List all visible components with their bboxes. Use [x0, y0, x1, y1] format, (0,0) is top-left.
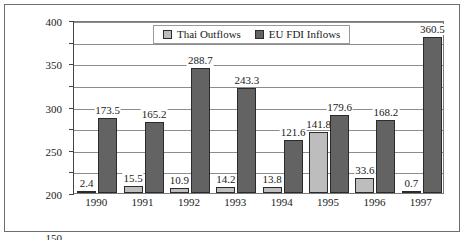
x-axis-tick-label-1994: 1994 [271, 197, 293, 208]
y-axis-tick: 50 [69, 172, 74, 173]
bar-value-label: 121.6 [280, 127, 307, 138]
y-axis-tick: 0 [69, 194, 74, 195]
bar-value-label: 288.7 [187, 55, 214, 66]
y-axis-tick-label: 300 [46, 103, 63, 114]
grouped-bar-chart: 2.4173.515.5165.210.9288.714.2243.313.81… [5, 5, 461, 233]
bar-thai-outflows-1995[interactable] [309, 132, 328, 193]
x-axis-tick-label-1991: 1991 [132, 197, 154, 208]
y-axis-tick: 150 [69, 129, 74, 130]
bar-eu-fdi-inflows-1997[interactable] [423, 37, 442, 193]
x-axis-tick-label-1992: 1992 [178, 197, 200, 208]
y-axis-tick: 300 [69, 64, 74, 65]
legend-entry-thai-outflows[interactable]: Thai Outflows [163, 29, 241, 40]
bar-eu-fdi-inflows-1994[interactable] [284, 140, 303, 193]
legend-swatch-icon [255, 30, 264, 39]
y-axis-tick-label: 350 [46, 60, 63, 71]
y-axis-tick: 400 [69, 21, 74, 22]
bar-value-label: 360.5 [419, 24, 446, 35]
gridline [74, 87, 443, 88]
bar-thai-outflows-1997[interactable] [402, 191, 421, 193]
x-axis-tick-label-1997: 1997 [410, 197, 432, 208]
legend-swatch-icon [163, 30, 172, 39]
bar-value-label: 173.5 [94, 105, 121, 116]
bar-value-label: 179.6 [326, 102, 353, 113]
y-axis-tick: 350 [69, 43, 74, 44]
bar-value-label: 14.2 [215, 174, 236, 185]
bar-thai-outflows-1993[interactable] [216, 187, 235, 193]
y-axis-tick: 200 [69, 108, 74, 109]
bar-value-label: 243.3 [233, 75, 260, 86]
bar-eu-fdi-inflows-1991[interactable] [145, 122, 164, 193]
y-axis-tick: 250 [69, 86, 74, 87]
bar-thai-outflows-1994[interactable] [263, 187, 282, 193]
bar-value-label: 165.2 [141, 109, 168, 120]
bar-value-label: 15.5 [122, 173, 143, 184]
y-axis: 050100150200250300350400 [73, 21, 74, 194]
x-axis-tick-label-1990: 1990 [85, 197, 107, 208]
x-axis-tick-label-1993: 1993 [224, 197, 246, 208]
bar-value-label: 168.2 [373, 107, 400, 118]
bar-thai-outflows-1996[interactable] [355, 178, 374, 193]
legend-label: Thai Outflows [177, 29, 241, 40]
bar-thai-outflows-1992[interactable] [170, 188, 189, 193]
chart-legend: Thai OutflowsEU FDI Inflows [153, 25, 350, 44]
bar-eu-fdi-inflows-1993[interactable] [237, 88, 256, 193]
gridline [74, 65, 443, 66]
gridline [74, 22, 443, 23]
legend-label: EU FDI Inflows [269, 29, 341, 40]
bar-value-label: 2.4 [79, 178, 95, 189]
bar-value-label: 13.8 [262, 174, 283, 185]
bar-eu-fdi-inflows-1990[interactable] [98, 118, 117, 193]
x-axis-labels: 19901991199219931994199519961997 [73, 197, 444, 217]
y-axis-tick-label: 250 [46, 146, 63, 157]
x-axis-tick-label-1996: 1996 [363, 197, 385, 208]
x-axis-tick-label-1995: 1995 [317, 197, 339, 208]
y-axis-tick: 100 [69, 151, 74, 152]
chart-figure-frame: 2.4173.515.5165.210.9288.714.2243.313.81… [4, 4, 460, 232]
bar-thai-outflows-1991[interactable] [124, 186, 143, 193]
bar-eu-fdi-inflows-1992[interactable] [191, 68, 210, 193]
bar-value-label: 33.6 [354, 165, 375, 176]
y-axis-tick-label: 400 [46, 17, 63, 28]
bar-value-label: 10.9 [169, 175, 190, 186]
bar-eu-fdi-inflows-1996[interactable] [376, 120, 395, 193]
y-axis-tick-label: 200 [46, 190, 63, 201]
plot-area: 2.4173.515.5165.210.9288.714.2243.313.81… [73, 21, 444, 194]
bar-value-label: 141.8 [305, 119, 332, 130]
bar-thai-outflows-1990[interactable] [77, 191, 96, 193]
y-axis-tick-label: 150 [46, 233, 63, 238]
legend-entry-eu-fdi-inflows[interactable]: EU FDI Inflows [255, 29, 341, 40]
bar-eu-fdi-inflows-1995[interactable] [330, 115, 349, 193]
bar-value-label: 0.7 [403, 178, 419, 189]
